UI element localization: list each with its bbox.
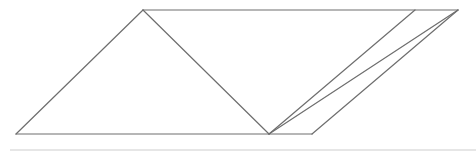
bottom-divider: [10, 149, 476, 151]
segment-EC: [269, 10, 458, 134]
segment-BE: [143, 10, 269, 134]
segment-FC: [312, 10, 458, 134]
geometric-diagram: [0, 0, 476, 151]
segment-AB: [16, 10, 143, 134]
segment-ED: [269, 10, 415, 134]
